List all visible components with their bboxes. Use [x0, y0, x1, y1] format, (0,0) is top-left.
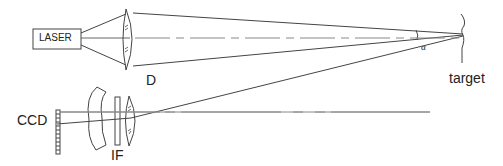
- interference-filter: [115, 97, 120, 145]
- optical-diagram: [0, 0, 503, 166]
- lens-d: [123, 9, 132, 70]
- angle-label: α: [421, 43, 426, 52]
- filter-label: IF: [111, 148, 123, 162]
- laser-label: LASER: [39, 33, 72, 43]
- ccd-label: CCD: [17, 113, 47, 127]
- lens-d-label: D: [146, 73, 156, 87]
- target-surface: [461, 14, 465, 63]
- lens-lower: [126, 96, 136, 146]
- target-label: target: [449, 71, 485, 85]
- ccd-array: [56, 110, 60, 154]
- meniscus-lens: [88, 87, 106, 150]
